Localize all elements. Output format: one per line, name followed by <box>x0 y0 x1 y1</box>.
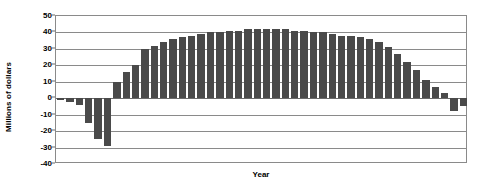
y-tick-label: -40 <box>22 159 52 168</box>
y-tick-label: 10 <box>22 76 52 85</box>
y-axis-title: Millions of dollars <box>0 0 16 194</box>
bar <box>338 36 345 98</box>
bar <box>104 98 111 146</box>
bar <box>216 32 223 98</box>
bar <box>319 32 326 98</box>
bar <box>188 36 195 98</box>
y-axis-tick-labels: 50403020100-10-20-30-40 <box>22 15 52 163</box>
bar <box>66 98 73 101</box>
bar <box>132 65 139 98</box>
bar <box>329 34 336 98</box>
bar <box>413 70 420 98</box>
bar <box>385 47 392 98</box>
bar <box>94 98 101 139</box>
bar <box>394 54 401 98</box>
bar <box>272 29 279 98</box>
y-tick-label: 0 <box>22 93 52 102</box>
bar <box>197 34 204 98</box>
bar <box>366 39 373 98</box>
bar-chart-figure: Millions of dollars 50403020100-10-20-30… <box>0 0 486 194</box>
plot-area <box>55 15 467 163</box>
bar <box>76 98 83 105</box>
y-tick-label: -30 <box>22 142 52 151</box>
y-tick-label: 30 <box>22 43 52 52</box>
bar <box>432 87 439 99</box>
y-tick-label: -20 <box>22 126 52 135</box>
bar <box>357 37 364 98</box>
bar <box>85 98 92 123</box>
y-tick-label: -10 <box>22 109 52 118</box>
bar <box>151 46 158 99</box>
bar <box>460 98 467 106</box>
y-tick-label: 40 <box>22 27 52 36</box>
bar <box>291 31 298 98</box>
bar <box>123 72 130 98</box>
bar-series <box>56 16 466 162</box>
bar <box>113 82 120 98</box>
bar <box>300 31 307 98</box>
bar <box>310 32 317 98</box>
bar <box>422 80 429 98</box>
bar <box>160 42 167 98</box>
x-axis-title: Year <box>55 170 467 179</box>
bar <box>207 32 214 98</box>
bar <box>263 29 270 98</box>
bar <box>282 29 289 98</box>
bar <box>244 29 251 98</box>
bar <box>179 37 186 98</box>
y-tick-label: 50 <box>22 11 52 20</box>
bar <box>235 31 242 98</box>
bar <box>450 98 457 111</box>
bar <box>403 62 410 98</box>
bar <box>141 49 148 98</box>
bar <box>375 42 382 98</box>
bar <box>347 36 354 98</box>
bar <box>169 39 176 98</box>
bar <box>441 93 448 98</box>
bar <box>57 98 64 100</box>
bar <box>254 29 261 98</box>
y-tick-label: 20 <box>22 60 52 69</box>
bar <box>226 31 233 98</box>
